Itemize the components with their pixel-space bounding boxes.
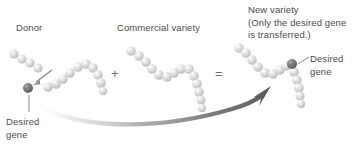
leader-line-right bbox=[298, 57, 309, 64]
label-desired-gene-right: Desired gene bbox=[310, 53, 343, 78]
new-variety-chromosome-chain bbox=[234, 43, 305, 108]
equals-operator: = bbox=[215, 66, 223, 81]
label-desired-gene-left: Desired gene bbox=[6, 116, 39, 141]
diagram-canvas: Donor Commercial variety New variety (On… bbox=[0, 0, 359, 151]
desired-gene-bead-left bbox=[23, 83, 33, 93]
desired-gene-bead-right bbox=[287, 59, 297, 69]
donor-fragment-chain bbox=[9, 49, 42, 72]
donor-chromosome-chain bbox=[43, 59, 107, 95]
commercial-chromosome-chain bbox=[126, 46, 206, 112]
label-donor: Donor bbox=[16, 22, 42, 35]
plus-operator: + bbox=[111, 66, 119, 81]
gene-transfer-arrow bbox=[30, 86, 271, 124]
label-new-variety: New variety (Only the desired gene is tr… bbox=[248, 4, 346, 42]
label-commercial-variety: Commercial variety bbox=[117, 22, 200, 35]
